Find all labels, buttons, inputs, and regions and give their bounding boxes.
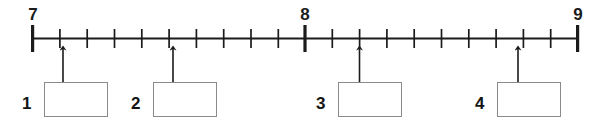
answer-box-3[interactable] xyxy=(338,82,402,117)
answer-box-2[interactable] xyxy=(153,82,217,117)
item-number-3: 3 xyxy=(316,95,336,112)
axis-label-9: 9 xyxy=(566,6,590,23)
item-number-4: 4 xyxy=(475,95,495,112)
answer-box-4[interactable] xyxy=(497,82,561,117)
number-line-worksheet: 7 8 9 1 2 3 4 xyxy=(0,0,600,131)
answer-box-1[interactable] xyxy=(44,82,108,117)
item-number-1: 1 xyxy=(22,95,42,112)
item-number-2: 2 xyxy=(131,95,151,112)
axis-label-8: 8 xyxy=(293,6,317,23)
axis-label-7: 7 xyxy=(21,6,45,23)
